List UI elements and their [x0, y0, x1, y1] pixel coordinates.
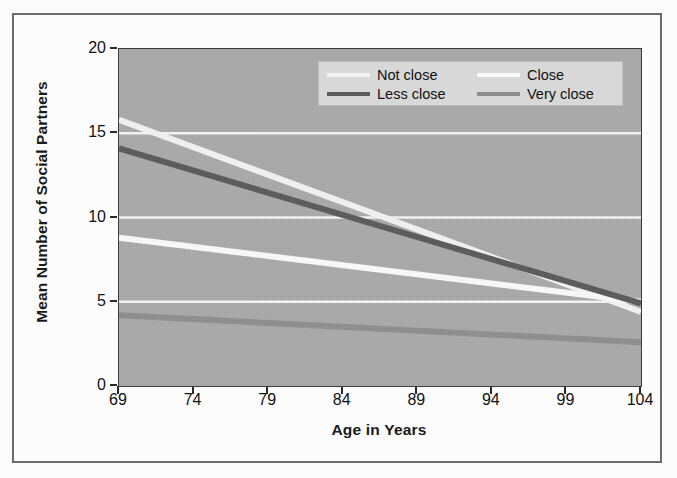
y-tick-label-0: 0	[66, 376, 106, 394]
x-tick-mark	[117, 386, 119, 394]
x-tick-mark	[639, 386, 641, 394]
legend-entry-less-close: Less close	[327, 86, 477, 102]
legend-entry-not-close: Not close	[327, 67, 477, 83]
figure-root: Mean Number of Social Partners Age in Ye…	[0, 0, 677, 478]
legend-swatch-less-close	[327, 92, 370, 96]
x-tick-mark	[266, 386, 268, 394]
x-tick-mark	[490, 386, 492, 394]
y-tick-mark	[110, 384, 117, 386]
legend-label-not-close: Not close	[377, 67, 437, 83]
x-tick-mark	[564, 386, 566, 394]
y-tick-mark	[110, 300, 117, 302]
y-tick-mark	[110, 131, 117, 133]
legend-row-2: Less close Very close	[327, 84, 614, 103]
y-tick-mark	[110, 47, 117, 49]
x-tick-mark	[415, 386, 417, 394]
legend-label-very-close: Very close	[527, 86, 594, 102]
chart-legend: Not close Close Less close Very close	[318, 61, 623, 106]
x-tick-mark	[192, 386, 194, 394]
y-tick-mark	[110, 216, 117, 218]
legend-entry-close: Close	[477, 67, 564, 83]
series-line-close	[119, 238, 641, 302]
y-tick-label-15: 15	[66, 123, 106, 141]
legend-label-close: Close	[527, 67, 564, 83]
y-tick-label-10: 10	[66, 208, 106, 226]
y-tick-label-20: 20	[66, 39, 106, 57]
series-line-very-close	[119, 315, 641, 342]
x-axis-title: Age in Years	[118, 421, 640, 439]
legend-swatch-very-close	[477, 92, 520, 96]
legend-entry-very-close: Very close	[477, 86, 594, 102]
legend-label-less-close: Less close	[377, 86, 446, 102]
y-axis-title: Mean Number of Social Partners	[33, 47, 51, 357]
x-tick-mark	[341, 386, 343, 394]
y-tick-label-5: 5	[66, 292, 106, 310]
series-lines	[119, 120, 641, 342]
legend-swatch-not-close	[327, 73, 370, 77]
legend-swatch-close	[477, 73, 520, 77]
series-line-less-close	[119, 148, 641, 303]
legend-row-1: Not close Close	[327, 65, 614, 84]
